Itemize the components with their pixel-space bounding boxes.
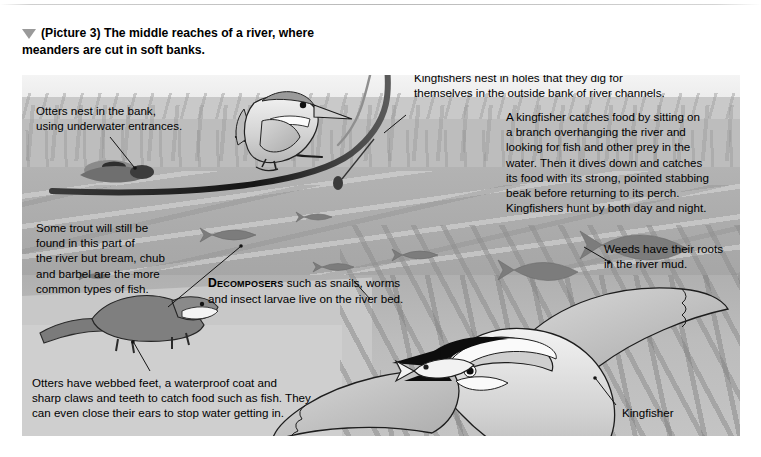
decomposers-line2: and insect larvae live on the river bed. <box>208 291 468 306</box>
annotation-kingfisher-feeding: A kingfisher catches food by sitting on … <box>506 109 740 215</box>
annotation-decomposers: Decomposers such as snails, worms and in… <box>208 275 468 306</box>
decomposers-lead-word: Decomposers <box>208 276 284 290</box>
annotation-weeds: Weeds have their roots in the river mud. <box>604 241 740 271</box>
annotation-fish-types: Some trout will still be found in this p… <box>36 220 216 296</box>
figure-caption-text: (Picture 3) The middle reaches of a rive… <box>22 26 314 57</box>
label-kingfisher: Kingfisher <box>622 405 740 420</box>
figure-caption: (Picture 3) The middle reaches of a rive… <box>22 25 352 58</box>
river-illustration-panel: Otters nest in the bank, using underwate… <box>22 75 740 436</box>
perched-kingfisher <box>236 92 352 171</box>
annotation-otter-features: Otters have webbed feet, a waterproof co… <box>32 375 352 421</box>
annotation-otters-nest: Otters nest in the bank, using underwate… <box>36 103 246 133</box>
page-top-rule <box>0 4 761 5</box>
annotation-kingfishers-nest: Kingfishers nest in holes that they dig … <box>414 75 740 100</box>
decomposers-line1-rest: such as snails, worms <box>284 276 401 289</box>
figure-page: (Picture 3) The middle reaches of a rive… <box>0 0 761 457</box>
otter-on-bank <box>40 296 218 353</box>
triangle-down-icon <box>22 29 36 39</box>
